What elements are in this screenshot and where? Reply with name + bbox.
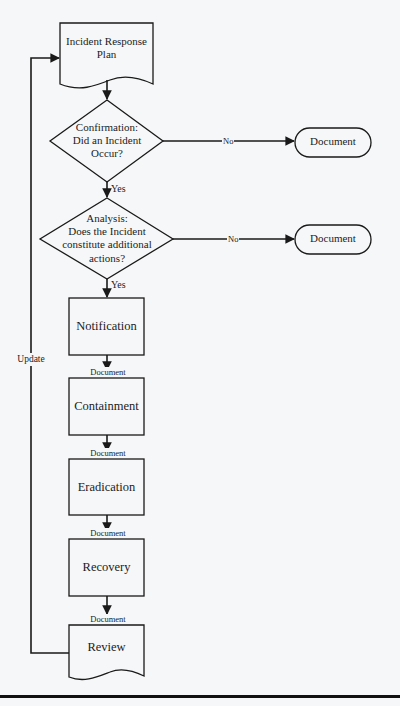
confirmation-label-line1: Confirmation:	[57, 121, 157, 134]
edge-label-containment-to-eradication: Document	[87, 448, 129, 458]
edge-label-analysis-no: No	[227, 234, 239, 244]
document-2-label: Document	[295, 232, 371, 245]
edge-label-analysis-yes: Yes	[111, 279, 126, 291]
edge-label-confirmation-no: No	[222, 136, 234, 146]
flowchart-canvas	[0, 0, 400, 706]
analysis-label-line1: Analysis:	[47, 212, 167, 225]
plan-label: Incident Response Plan	[60, 35, 153, 61]
analysis-label-line4: actions?	[47, 252, 167, 265]
edge-label-recovery-to-review: Document	[87, 614, 129, 624]
document-1-label: Document	[295, 135, 371, 148]
plan-label-line1: Incident Response	[60, 35, 153, 48]
analysis-label-line2: Does the Incident	[47, 225, 167, 238]
eradication-label: Eradication	[69, 480, 144, 495]
confirmation-label-line2: Did an Incident	[57, 134, 157, 147]
edge-label-notification-to-containment: Document	[87, 367, 129, 377]
confirmation-label: Confirmation: Did an Incident Occur?	[57, 121, 157, 161]
edge-label-eradication-to-recovery: Document	[87, 528, 129, 538]
confirmation-label-line3: Occur?	[57, 147, 157, 160]
notification-label: Notification	[69, 319, 144, 334]
review-label: Review	[69, 640, 144, 655]
analysis-label: Analysis: Does the Incident constitute a…	[47, 212, 167, 265]
bottom-rule-divider	[0, 695, 400, 698]
plan-label-line2: Plan	[60, 48, 153, 61]
edge-label-confirmation-yes: Yes	[111, 183, 126, 195]
containment-label: Containment	[69, 399, 144, 414]
edge-label-update: Update	[16, 353, 46, 366]
recovery-label: Recovery	[69, 560, 144, 575]
analysis-label-line3: constitute additional	[47, 238, 167, 251]
